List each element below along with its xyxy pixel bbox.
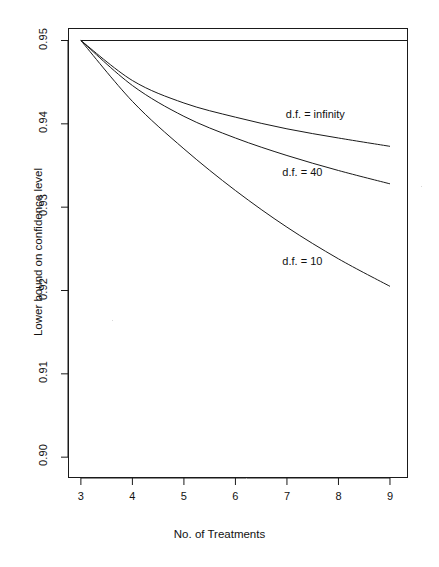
series-df_infinity (81, 41, 390, 147)
scan-speck (112, 320, 113, 321)
y-tick-label: 0.94 (37, 102, 49, 142)
scan-speck (421, 186, 422, 187)
y-tick-label: 0.95 (37, 19, 49, 59)
scan-speck (246, 478, 247, 479)
plot-canvas (0, 0, 439, 567)
y-axis-ticks (61, 41, 68, 458)
x-tick-label: 9 (378, 490, 402, 502)
x-tick-label: 8 (326, 490, 350, 502)
y-axis-title: Lower bound on confidence level (32, 142, 44, 362)
data-series-group (81, 41, 408, 287)
x-axis-ticks (81, 478, 390, 485)
x-tick-label: 5 (172, 490, 196, 502)
x-axis-title: No. of Treatments (0, 528, 439, 540)
series-annotation: d.f. = 10 (282, 255, 322, 267)
x-tick-label: 6 (223, 490, 247, 502)
series-annotation: d.f. = infinity (286, 108, 345, 120)
x-tick-label: 3 (69, 490, 93, 502)
x-tick-label: 4 (120, 490, 144, 502)
x-tick-label: 7 (275, 490, 299, 502)
chart-page: 0.950.940.930.920.910.90 3456789 d.f. = … (0, 0, 439, 567)
series-annotation: d.f. = 40 (282, 166, 322, 178)
y-tick-label: 0.90 (37, 435, 49, 475)
